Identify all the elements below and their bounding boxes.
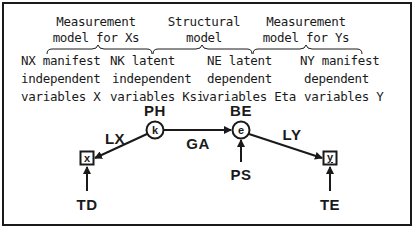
column-nk-line2: independent [112, 70, 191, 88]
column-nx-line1: NX manifest [21, 52, 100, 70]
ly-label: LY [283, 127, 302, 143]
ph-label: PH [144, 103, 166, 119]
header-structural-line2: model [186, 29, 222, 47]
eta-glyph: e [238, 124, 244, 136]
column-nk-line1: NK latent [110, 52, 175, 70]
ksi-glyph: k [152, 124, 158, 136]
te-label: TE [320, 197, 340, 213]
x-glyph: x [84, 152, 90, 164]
lisrel-diagram: Measurement model for Xs Structural mode… [0, 0, 414, 231]
column-ny-line2: dependent [304, 70, 369, 88]
column-ne-line1: NE latent [207, 52, 272, 70]
column-ny-line1: NY manifest [300, 52, 379, 70]
column-nx-line3: variables X [21, 88, 100, 106]
ga-label: GA [186, 136, 210, 152]
column-nx-line2: independent [21, 70, 100, 88]
column-ny-line3: variables Y [304, 88, 383, 106]
be-label: BE [230, 103, 252, 119]
header-measurement-x-line2: model for Xs [53, 29, 140, 47]
column-ne-line2: dependent [207, 70, 272, 88]
td-label: TD [77, 197, 98, 213]
lx-label: LX [105, 131, 125, 147]
ps-label: PS [230, 167, 251, 183]
y-glyph: y [327, 151, 333, 163]
header-measurement-y-line2: model for Ys [263, 29, 350, 47]
